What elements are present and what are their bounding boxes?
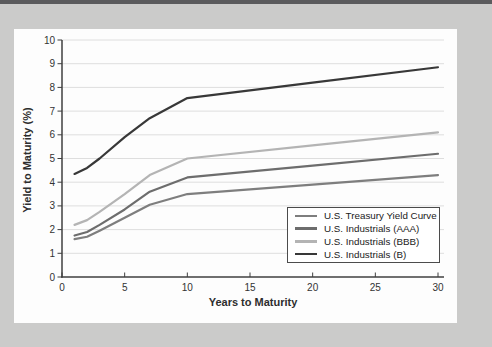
legend-swatch <box>295 240 317 243</box>
y-tick-label-1: 1 <box>49 248 55 259</box>
legend-item: U.S. Industrials (BBB) <box>295 236 432 248</box>
legend-label: U.S. Industrials (BBB) <box>324 236 419 247</box>
y-tick-label-6: 6 <box>49 129 55 140</box>
x-tick-label-25: 25 <box>370 282 382 293</box>
x-tick-label-20: 20 <box>307 282 319 293</box>
legend-item: U.S. Industrials (AAA) <box>295 223 432 235</box>
y-tick-label-9: 9 <box>49 58 55 69</box>
chart-legend: U.S. Treasury Yield CurveU.S. Industrial… <box>287 207 440 263</box>
x-tick-label-10: 10 <box>182 282 194 293</box>
legend-swatch <box>295 227 317 230</box>
y-tick-label-5: 5 <box>49 153 55 164</box>
legend-label: U.S. Industrials (B) <box>324 249 406 260</box>
legend-label: U.S. Industrials (AAA) <box>324 223 419 234</box>
screen: 012345678910051015202530 Yield to Maturi… <box>0 0 492 347</box>
x-tick-label-15: 15 <box>244 282 256 293</box>
y-tick-label-8: 8 <box>49 82 55 93</box>
y-axis-title: Yield to Maturity (%) <box>21 107 33 212</box>
legend-swatch <box>295 215 317 218</box>
y-tick-label-10: 10 <box>44 35 56 46</box>
legend-item: U.S. Treasury Yield Curve <box>295 210 432 222</box>
yield-curve-chart: 012345678910051015202530 <box>0 0 492 347</box>
x-axis-title: Years to Maturity <box>62 296 444 308</box>
legend-item: U.S. Industrials (B) <box>295 248 432 260</box>
y-tick-label-2: 2 <box>49 224 55 235</box>
y-tick-label-0: 0 <box>49 272 55 283</box>
y-tick-label-7: 7 <box>49 106 55 117</box>
x-tick-label-5: 5 <box>122 282 128 293</box>
x-tick-label-30: 30 <box>432 282 444 293</box>
legend-label: U.S. Treasury Yield Curve <box>324 210 437 221</box>
y-tick-label-3: 3 <box>49 200 55 211</box>
legend-swatch <box>295 253 317 256</box>
x-tick-label-0: 0 <box>59 282 65 293</box>
y-tick-label-4: 4 <box>49 177 55 188</box>
